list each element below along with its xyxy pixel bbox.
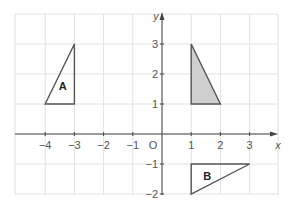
- y-axis-arrow-icon: [160, 12, 165, 20]
- origin-label: O: [149, 139, 158, 151]
- x-tick-label: 2: [217, 139, 223, 151]
- x-axis-arrow-icon: [270, 132, 278, 137]
- x-tick-label: −4: [39, 139, 52, 151]
- y-axis-label: y: [152, 10, 160, 22]
- y-tick-label: 2: [152, 68, 158, 80]
- axis-labels: −4−3−2−1123321−1−2Oxy: [39, 10, 281, 200]
- x-tick-label: −2: [97, 139, 110, 151]
- x-tick-label: 3: [247, 139, 253, 151]
- x-tick-label: −3: [68, 139, 81, 151]
- triangles: AB: [45, 44, 249, 194]
- coordinate-diagram: AB −4−3−2−1123321−1−2Oxy: [0, 0, 291, 208]
- x-axis-label: x: [274, 139, 281, 151]
- y-tick-label: −1: [145, 158, 158, 170]
- x-tick-label: −1: [127, 139, 140, 151]
- triangle-label-A: A: [59, 80, 67, 92]
- y-tick-label: 1: [152, 98, 158, 110]
- x-tick-label: 1: [188, 139, 194, 151]
- y-tick-label: 3: [152, 38, 158, 50]
- triangle-label-B: B: [203, 170, 211, 182]
- y-tick-label: −2: [145, 188, 158, 200]
